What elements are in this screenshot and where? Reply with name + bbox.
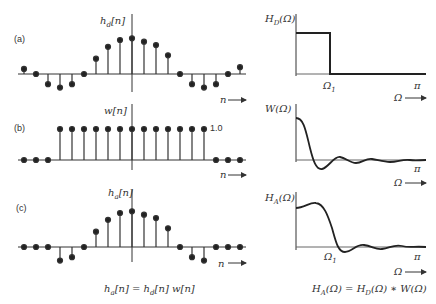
stem-point (106, 217, 111, 222)
tag-b: (b) (14, 123, 25, 133)
xtick-omega1-c: Ω1 (323, 251, 337, 265)
stem-plot-b: (b) w[n] 1.0 n (14, 104, 246, 180)
xlabel-rb: Ω (393, 177, 402, 188)
stem-point (178, 127, 183, 132)
stem-point (94, 127, 99, 132)
stem-point (22, 245, 27, 250)
stem-point (34, 72, 39, 77)
spectrum-plot-b: W(Ω) π Ω (265, 103, 426, 188)
stem-point (166, 127, 171, 132)
stem-point (202, 127, 207, 132)
stem-point (154, 127, 159, 132)
stem-plot-a: (a) hd[n] n (14, 14, 246, 105)
stem-point (214, 158, 219, 163)
stem-plot-c: (c) ha[n] n ha[n] = hd[n] w[n] (16, 187, 246, 297)
caption-left: ha[n] = hd[n] w[n] (104, 283, 195, 297)
stem-point (202, 258, 207, 263)
stem-point (34, 158, 39, 163)
stem-point (22, 158, 27, 163)
stem-point (82, 245, 87, 250)
caption-right: HA(Ω) = HD(Ω) ∗ W(Ω) (311, 283, 427, 297)
stem-point (130, 36, 135, 41)
stem-point (106, 127, 111, 132)
tag-c: (c) (16, 203, 27, 213)
xtick-omega1-a: Ω1 (322, 80, 336, 94)
xtick-pi-b: π (413, 163, 421, 174)
xlabel-ra: Ω (393, 92, 402, 103)
stem-point (190, 255, 195, 260)
stem-point (58, 258, 63, 263)
stem-point (238, 65, 243, 70)
stem-point (70, 255, 75, 260)
stem-point (58, 127, 63, 132)
stem-point (154, 216, 159, 221)
stem-point (142, 39, 147, 44)
stem-point (82, 72, 87, 77)
stem-point (226, 245, 231, 250)
stem-point (70, 127, 75, 132)
stem-point (94, 229, 99, 234)
stem-point (118, 127, 123, 132)
stem-point (130, 127, 135, 132)
ylabel-rc: HA(Ω) (264, 192, 295, 206)
stem-point (58, 85, 63, 90)
stem-point (178, 245, 183, 250)
stem-point (166, 226, 171, 231)
stem-point (154, 43, 159, 48)
figure: (a) hd[n] n (b) w[n] 1.0 n (c) ha[n] n h… (0, 0, 436, 304)
stem-point (226, 72, 231, 77)
xlabel-b: n (220, 169, 226, 180)
stem-point (214, 245, 219, 250)
stem-point (34, 245, 39, 250)
stem-point (118, 211, 123, 216)
ylabel-c: ha[n] (108, 187, 133, 201)
tag-a: (a) (14, 34, 25, 44)
xlabel-rc: Ω (393, 266, 402, 277)
xtick-pi-a: π (413, 80, 421, 91)
stem-point (46, 158, 51, 163)
spectrum-plot-c: HA(Ω) Ω1 π Ω HA(Ω) = HD(Ω) ∗ W(Ω) (264, 192, 427, 297)
spectrum-plot-a: HD(Ω) Ω1 π Ω (264, 13, 426, 103)
ylabel-rb: W(Ω) (265, 103, 291, 114)
xtick-pi-c: π (413, 251, 421, 262)
stem-point (238, 245, 243, 250)
stem-point (46, 245, 51, 250)
stem-point (226, 158, 231, 163)
level-label: 1.0 (210, 123, 223, 133)
stem-point (106, 44, 111, 49)
stem-point (70, 82, 75, 87)
stem-point (82, 127, 87, 132)
xlabel-c: n (218, 258, 224, 269)
stem-point (130, 209, 135, 214)
ylabel-a: hd[n] (100, 15, 125, 29)
ylabel-ra: HD(Ω) (264, 13, 296, 27)
stem-point (142, 127, 147, 132)
stem-point (166, 53, 171, 58)
stem-point (202, 85, 207, 90)
stem-point (178, 72, 183, 77)
stem-point (118, 38, 123, 43)
stem-point (238, 158, 243, 163)
stem-point (94, 56, 99, 61)
ylabel-b: w[n] (104, 105, 127, 116)
stem-point (214, 82, 219, 87)
stem-point (22, 66, 27, 71)
stem-point (190, 127, 195, 132)
stem-point (142, 212, 147, 217)
stem-point (46, 82, 51, 87)
stem-point (190, 82, 195, 87)
xlabel-a: n (220, 94, 226, 105)
